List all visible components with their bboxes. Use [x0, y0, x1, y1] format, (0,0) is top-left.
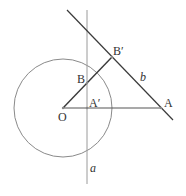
- point-o: [62, 107, 64, 109]
- point-a-prime: [86, 107, 88, 109]
- label-a-prime: A′: [89, 97, 100, 109]
- point-b: [86, 82, 88, 84]
- label-line-a: a: [90, 162, 96, 174]
- line-b: [67, 10, 173, 120]
- label-a: A: [164, 97, 173, 109]
- label-o: O: [58, 111, 67, 123]
- label-b-prime: B′: [113, 45, 124, 57]
- label-b: B: [77, 73, 85, 85]
- geometry-diagram: O A A′ B B′ b a: [0, 0, 186, 196]
- point-a: [160, 107, 162, 109]
- label-line-b: b: [140, 71, 146, 83]
